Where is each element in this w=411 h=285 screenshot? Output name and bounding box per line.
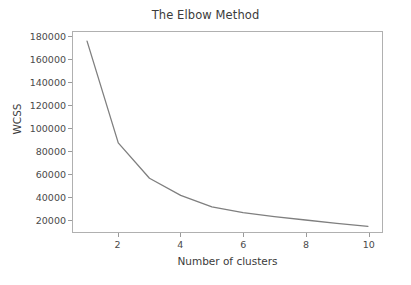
plot-area [72, 31, 383, 233]
x-axis-tick-mark [369, 233, 370, 237]
x-axis-label: Number of clusters [72, 255, 383, 267]
y-axis-tick-label: 20000 [36, 215, 66, 226]
y-axis-tick-label: 80000 [36, 146, 66, 157]
y-axis-tick-labels: 2000040000600008000010000012000014000016… [0, 0, 66, 285]
x-axis-tick-label: 8 [303, 239, 309, 250]
x-axis-tick-label: 6 [240, 239, 246, 250]
y-axis-tick-label: 60000 [36, 169, 66, 180]
wcss-line-series [87, 41, 368, 226]
x-axis-tick-label: 2 [115, 239, 121, 250]
x-axis-tick-label: 10 [363, 239, 375, 250]
y-axis-tick-label: 120000 [30, 99, 66, 110]
y-axis-tick-label: 140000 [30, 76, 66, 87]
x-axis-tick-mark [118, 233, 119, 237]
x-axis-tick-mark [306, 233, 307, 237]
y-axis-tick-label: 100000 [30, 122, 66, 133]
x-axis-tick-mark [243, 233, 244, 237]
x-axis-tick-label: 4 [177, 239, 183, 250]
y-axis-tick-label: 40000 [36, 192, 66, 203]
data-line-svg [73, 32, 382, 232]
chart-figure: The Elbow Method WCSS 200004000060000800… [0, 0, 411, 285]
y-axis-tick-label: 180000 [30, 30, 66, 41]
x-axis-tick-mark [180, 233, 181, 237]
y-axis-tick-label: 160000 [30, 53, 66, 64]
